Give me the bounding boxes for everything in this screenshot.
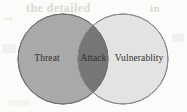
venn-svg — [0, 0, 187, 112]
venn-diagram-figure: the detailed in ut Threat Attack Vulnera… — [0, 0, 187, 112]
